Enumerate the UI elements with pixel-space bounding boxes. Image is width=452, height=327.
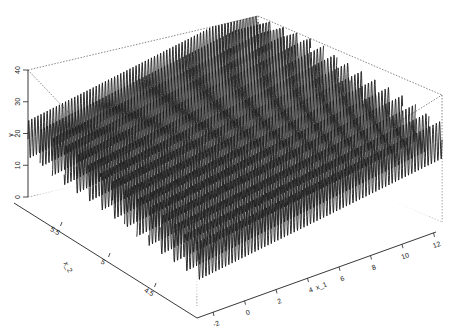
- x1-tick-label: 12: [432, 240, 442, 249]
- x1-tick-label: 8: [371, 263, 377, 271]
- x1-tick-label: -2: [212, 319, 220, 327]
- x2-axis-title: x_2: [62, 260, 74, 274]
- z-tick-label: 10: [14, 161, 21, 169]
- x2-tick-label: 4.5: [143, 286, 155, 297]
- z-tick-label: 40: [14, 66, 21, 74]
- x1-axis-title: x_1: [315, 280, 328, 291]
- z-axis-title: y: [7, 133, 15, 137]
- z-ticks: 010203040: [14, 66, 28, 199]
- x1-tick-label: 4: [308, 286, 314, 294]
- x1-tick-label: 2: [276, 297, 282, 305]
- x2-tick-label: 5.5: [49, 225, 61, 236]
- x2-tick-label: 5: [100, 258, 107, 266]
- x1-tick-label: 0: [245, 308, 251, 316]
- surface-plot: 010203040 4.555.5 -2024681012 y x_2 x_1: [0, 0, 452, 327]
- x1-tick-label: 6: [339, 274, 345, 282]
- wireframe-surface: [28, 16, 442, 306]
- z-tick-label: 20: [14, 130, 21, 138]
- z-tick-label: 30: [14, 98, 21, 106]
- x1-tick-label: 10: [400, 251, 410, 260]
- z-tick-label: 0: [14, 195, 21, 199]
